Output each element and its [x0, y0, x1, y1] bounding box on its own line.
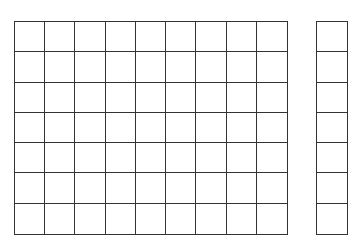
- grid-cell: [166, 83, 196, 113]
- grid-cell: [227, 113, 257, 143]
- grid-cell: [75, 113, 105, 143]
- grid-cell: [317, 113, 347, 143]
- grid-cell: [136, 83, 166, 113]
- grid-cell: [15, 52, 45, 82]
- grid-cell: [75, 22, 105, 52]
- grid-cell: [317, 173, 347, 203]
- grid-cell: [166, 52, 196, 82]
- grid-cell: [136, 204, 166, 234]
- grid-cell: [196, 52, 226, 82]
- grid-cell: [317, 52, 347, 82]
- grid-cell: [106, 83, 136, 113]
- side-grid: [316, 21, 348, 235]
- grid-cell: [196, 204, 226, 234]
- grid-cell: [166, 22, 196, 52]
- grid-cell: [45, 204, 75, 234]
- grid-cell: [75, 204, 105, 234]
- grid-cell: [257, 173, 287, 203]
- grid-cell: [227, 22, 257, 52]
- grid-cell: [166, 173, 196, 203]
- grid-cell: [45, 22, 75, 52]
- grid-cell: [227, 143, 257, 173]
- grid-cell: [45, 83, 75, 113]
- grid-cell: [227, 173, 257, 203]
- grid-cell: [136, 113, 166, 143]
- grid-cell: [106, 204, 136, 234]
- grid-cell: [317, 204, 347, 234]
- grid-cell: [227, 52, 257, 82]
- grid-cell: [15, 173, 45, 203]
- grid-cell: [75, 143, 105, 173]
- grid-cell: [45, 113, 75, 143]
- grid-cell: [45, 173, 75, 203]
- grid-cell: [75, 173, 105, 203]
- grid-cell: [75, 83, 105, 113]
- grid-cell: [166, 143, 196, 173]
- grid-cell: [136, 22, 166, 52]
- grid-cell: [106, 52, 136, 82]
- grid-cell: [136, 143, 166, 173]
- grid-cell: [196, 83, 226, 113]
- grid-cell: [15, 143, 45, 173]
- grid-cell: [257, 22, 287, 52]
- grid-cell: [257, 143, 287, 173]
- main-grid: [14, 21, 288, 235]
- grid-cell: [15, 113, 45, 143]
- grid-cell: [196, 143, 226, 173]
- grid-cell: [227, 83, 257, 113]
- grid-cell: [45, 143, 75, 173]
- grid-cell: [106, 113, 136, 143]
- grid-cell: [106, 22, 136, 52]
- grid-cell: [45, 52, 75, 82]
- grid-cell: [75, 52, 105, 82]
- grid-cell: [257, 83, 287, 113]
- grid-cell: [166, 113, 196, 143]
- grid-cell: [227, 204, 257, 234]
- grid-cell: [166, 204, 196, 234]
- grid-cell: [317, 83, 347, 113]
- grid-cell: [15, 204, 45, 234]
- grid-cell: [15, 83, 45, 113]
- grid-cell: [106, 173, 136, 203]
- grid-cell: [106, 143, 136, 173]
- grid-cell: [196, 113, 226, 143]
- grid-cell: [136, 52, 166, 82]
- grid-cell: [257, 204, 287, 234]
- grid-cell: [196, 22, 226, 52]
- grid-cell: [15, 22, 45, 52]
- grid-cell: [196, 173, 226, 203]
- grid-cell: [257, 52, 287, 82]
- grid-cell: [317, 143, 347, 173]
- grid-cell: [257, 113, 287, 143]
- grid-cell: [136, 173, 166, 203]
- grid-cell: [317, 22, 347, 52]
